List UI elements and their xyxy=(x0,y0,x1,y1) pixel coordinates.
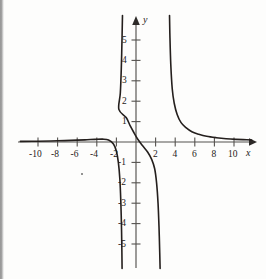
y-tick-label-3: 3 xyxy=(122,76,127,86)
x-tick-label-4: 4 xyxy=(173,150,178,160)
y-tick-label--3: -3 xyxy=(118,199,126,209)
x-tick-label--4: -4 xyxy=(90,150,98,160)
x-tick-label--8: -8 xyxy=(51,150,59,160)
y-tick-label--4: -4 xyxy=(118,219,126,229)
curve-right-branch xyxy=(170,16,252,140)
x-tick-label--2: -2 xyxy=(110,150,118,160)
x-tick-label-8: 8 xyxy=(212,150,217,160)
x-tick-label--6: -6 xyxy=(71,150,79,160)
x-tick-label-6: 6 xyxy=(192,150,197,160)
graph-figure: -10 -8 -6 -4 -2 2 4 6 8 10 5 4 3 2 1 -1 … xyxy=(0,0,266,279)
y-tick-label-4: 4 xyxy=(122,56,127,66)
y-axis-arrow xyxy=(132,16,140,25)
x-tick-label-10: 10 xyxy=(228,150,238,160)
x-tick-label--10: -10 xyxy=(29,150,42,160)
x-axis-label: x xyxy=(246,148,250,158)
y-tick-label-5: 5 xyxy=(122,36,127,46)
y-tick-label--2: -2 xyxy=(118,178,126,188)
y-axis-label: y xyxy=(143,15,147,25)
x-tick-label-2: 2 xyxy=(153,150,158,160)
y-tick-label-2: 2 xyxy=(122,97,127,107)
plot-canvas xyxy=(0,0,266,279)
y-tick-label--1: -1 xyxy=(118,158,126,168)
y-tick-label--5: -5 xyxy=(118,240,126,250)
y-tick-label-1: 1 xyxy=(122,117,127,127)
